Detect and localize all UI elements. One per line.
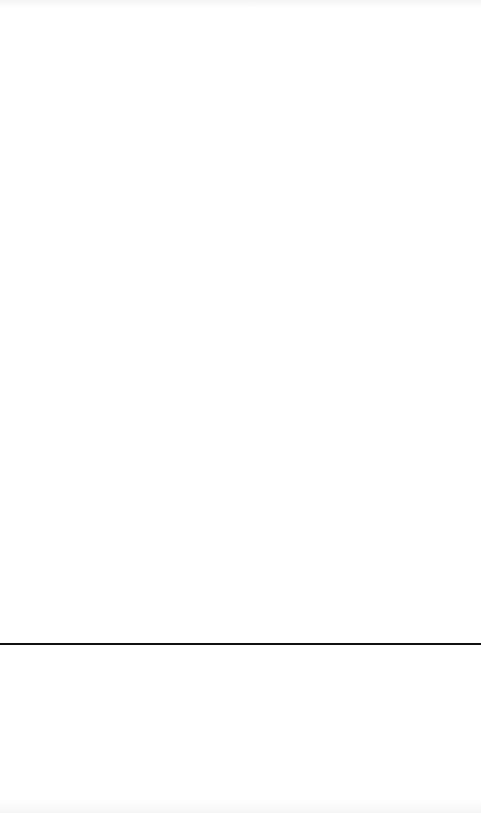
blank-page xyxy=(0,0,481,813)
horizontal-divider xyxy=(0,643,481,645)
bottom-edge xyxy=(0,799,481,813)
top-edge xyxy=(0,0,481,8)
